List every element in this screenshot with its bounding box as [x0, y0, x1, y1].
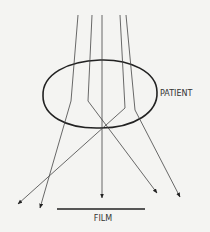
patient-label: PATIENT	[160, 89, 192, 98]
beam-4	[18, 15, 125, 204]
beam-2	[88, 15, 157, 193]
patient-outline	[43, 60, 157, 128]
x-ray-scatter-diagram: PATIENT FILM	[0, 0, 210, 232]
film-label: FILM	[94, 214, 112, 223]
